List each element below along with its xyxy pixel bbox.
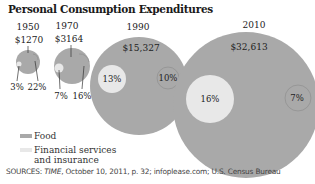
bubble-2010: 2010 $32,613 16% 7%: [173, 20, 315, 178]
financial-pct-label: 7%: [54, 91, 68, 101]
total-label: $15,327: [122, 43, 159, 53]
food-pct-label: 7%: [290, 93, 304, 103]
total-label: $3164: [55, 34, 84, 44]
legend-label-financial-line1: Financial services: [34, 145, 116, 155]
source-publication: TIME: [44, 167, 61, 176]
financial-pct-label: 16%: [201, 94, 220, 104]
bubble-1950: 1950 $1270 3% 22%: [10, 22, 46, 92]
source-details: , October 10, 2011, p. 32; infoplease.co…: [61, 167, 280, 176]
food-pct-label: 22%: [28, 82, 47, 92]
total-label: $32,613: [230, 42, 267, 52]
year-label: 1990: [127, 22, 150, 32]
food-swatch: [20, 134, 32, 138]
legend-label-food: Food: [34, 131, 56, 141]
financial-swatch: [20, 148, 32, 152]
bubble-1990: 1990 $15,327 13% 10%: [90, 22, 188, 135]
source-note: SOURCES: TIME, October 10, 2011, p. 32; …: [6, 167, 281, 176]
year-label: 2010: [243, 20, 266, 30]
year-label: 1970: [56, 21, 79, 31]
financial-pct-label: 3%: [10, 82, 24, 92]
total-label: $1270: [15, 35, 44, 45]
financial-pct-label: 13%: [103, 74, 122, 84]
source-prefix: SOURCES:: [6, 167, 44, 176]
food-pct-label: 16%: [73, 91, 92, 101]
financial-circle: [17, 62, 22, 67]
year-label: 1950: [17, 22, 40, 32]
food-pct-label: 10%: [159, 73, 178, 83]
legend-label-financial-line2: and insurance: [34, 155, 99, 165]
bubble-1970: 1970 $3164 7% 16%: [54, 21, 91, 101]
